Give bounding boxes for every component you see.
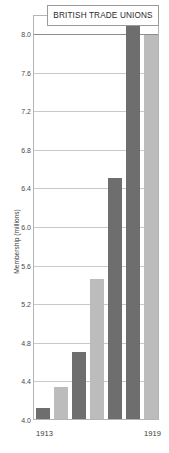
y-axis-tick-label: 7.2 bbox=[3, 108, 31, 115]
bar-1914 bbox=[54, 387, 68, 420]
bar-1913 bbox=[36, 408, 50, 420]
chart-title-box: BRITISH TRADE UNIONS bbox=[47, 5, 159, 26]
plot-frame bbox=[33, 15, 159, 420]
y-axis-label: Membership (millions) bbox=[13, 202, 20, 282]
plot-area bbox=[34, 35, 158, 420]
y-axis-tick-label: 6.8 bbox=[3, 146, 31, 153]
y-axis-tick-label: 8.0 bbox=[3, 31, 31, 38]
bar-1915 bbox=[72, 352, 86, 420]
y-axis-tick-label: 7.6 bbox=[3, 69, 31, 76]
y-axis-tick-label: 4.8 bbox=[3, 339, 31, 346]
y-axis-tick-label: 4.4 bbox=[3, 378, 31, 385]
y-axis-tick-label: 6.4 bbox=[3, 185, 31, 192]
chart-root: BRITISH TRADE UNIONS 8.07.67.26.86.46.05… bbox=[0, 0, 169, 453]
bar-1919 bbox=[144, 35, 158, 420]
x-axis-tick-last: 1919 bbox=[144, 429, 161, 438]
bar-1918 bbox=[126, 16, 140, 420]
x-axis-tick-first: 1913 bbox=[36, 429, 53, 438]
bar-1916 bbox=[90, 279, 104, 420]
bar-1917 bbox=[108, 178, 122, 420]
y-axis-tick-label: 5.2 bbox=[3, 301, 31, 308]
bars-layer bbox=[34, 35, 158, 420]
page-title: BRITISH TRADE UNIONS bbox=[53, 11, 152, 20]
y-axis-tick-label: 4.0 bbox=[3, 417, 31, 424]
